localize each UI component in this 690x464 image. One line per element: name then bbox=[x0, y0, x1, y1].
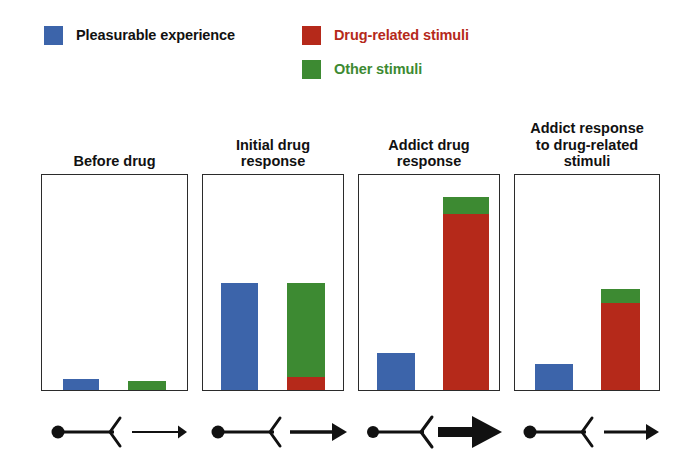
panel-title-addict-drug-response: Addict drug response bbox=[388, 137, 469, 169]
neuron-diagram-before-drug bbox=[48, 412, 188, 452]
panel-title-line: to drug-related bbox=[530, 137, 644, 153]
bar-pleasurable bbox=[377, 353, 415, 390]
panel-addict-drug-response: Addict drug response bbox=[358, 174, 500, 391]
bar-stimuli bbox=[601, 289, 640, 390]
plot-area-initial-drug-response bbox=[202, 174, 344, 391]
plot-area-addict-response-to-drug-related-stimuli bbox=[514, 174, 660, 391]
plot-area-addict-drug-response bbox=[358, 174, 500, 391]
legend: Pleasurable experience Drug-related stim… bbox=[0, 0, 690, 96]
neuron-diagram-addict-drug-response bbox=[364, 412, 504, 452]
panel-title-initial-drug-response: Initial drug response bbox=[236, 137, 310, 169]
bar-stimuli bbox=[443, 197, 489, 391]
color-swatch-icon-red bbox=[302, 26, 321, 45]
legend-label-other-stimuli: Other stimuli bbox=[334, 62, 422, 77]
legend-item-pleasurable-experience: Pleasurable experience bbox=[44, 26, 235, 45]
bar-segment-other-stimuli bbox=[128, 381, 166, 390]
panel-title-line: response bbox=[236, 153, 310, 169]
neuron-with-medium-arrow-icon bbox=[208, 412, 348, 452]
neuron-with-medium-arrow-icon bbox=[520, 412, 660, 452]
panel-title-addict-response-to-drug-related-stimuli: Addict response to drug-related stimuli bbox=[530, 120, 644, 169]
bar-segment-pleasurable-experience bbox=[377, 353, 415, 390]
bar-segment-drug-related-stimuli bbox=[287, 377, 325, 390]
bar-segment-pleasurable-experience bbox=[63, 379, 99, 390]
color-swatch-icon-green bbox=[302, 60, 321, 79]
bar-segment-drug-related-stimuli bbox=[443, 214, 489, 390]
bar-segment-drug-related-stimuli bbox=[601, 303, 640, 390]
neuron-with-thick-arrow-icon bbox=[364, 412, 504, 452]
bar-segment-pleasurable-experience bbox=[535, 364, 573, 390]
panel-title-line: Addict drug bbox=[388, 137, 469, 153]
bar-stimuli bbox=[128, 381, 166, 390]
panel-title-line: response bbox=[388, 153, 469, 169]
bar-segment-other-stimuli bbox=[287, 283, 325, 378]
bar-pleasurable bbox=[535, 364, 573, 390]
panel-before-drug: Before drug bbox=[41, 174, 188, 391]
legend-item-other-stimuli: Other stimuli bbox=[302, 60, 422, 79]
panel-addict-response-to-drug-related-stimuli: Addict response to drug-related stimuli bbox=[514, 174, 660, 391]
neuron-diagram-addict-response-to-drug-related-stimuli bbox=[520, 412, 660, 452]
color-swatch-icon-blue bbox=[44, 26, 63, 45]
neuron-diagram-initial-drug-response bbox=[208, 412, 348, 452]
panel-title-line: Before drug bbox=[73, 153, 155, 169]
panel-title-line: Addict response bbox=[530, 120, 644, 136]
legend-label-pleasurable-experience: Pleasurable experience bbox=[76, 28, 235, 43]
legend-label-drug-related-stimuli: Drug-related stimuli bbox=[334, 28, 469, 43]
bar-stimuli bbox=[287, 283, 325, 391]
panel-title-before-drug: Before drug bbox=[73, 153, 155, 169]
bar-segment-pleasurable-experience bbox=[221, 283, 258, 391]
panel-initial-drug-response: Initial drug response bbox=[202, 174, 344, 391]
panel-title-line: stimuli bbox=[530, 153, 644, 169]
panel-title-line: Initial drug bbox=[236, 137, 310, 153]
bar-pleasurable bbox=[221, 283, 258, 391]
bar-segment-other-stimuli bbox=[601, 289, 640, 303]
neuron-with-thin-arrow-icon bbox=[48, 412, 188, 452]
legend-item-drug-related-stimuli: Drug-related stimuli bbox=[302, 26, 469, 45]
bar-segment-other-stimuli bbox=[443, 197, 489, 214]
plot-area-before-drug bbox=[41, 174, 188, 391]
bar-pleasurable bbox=[63, 379, 99, 390]
